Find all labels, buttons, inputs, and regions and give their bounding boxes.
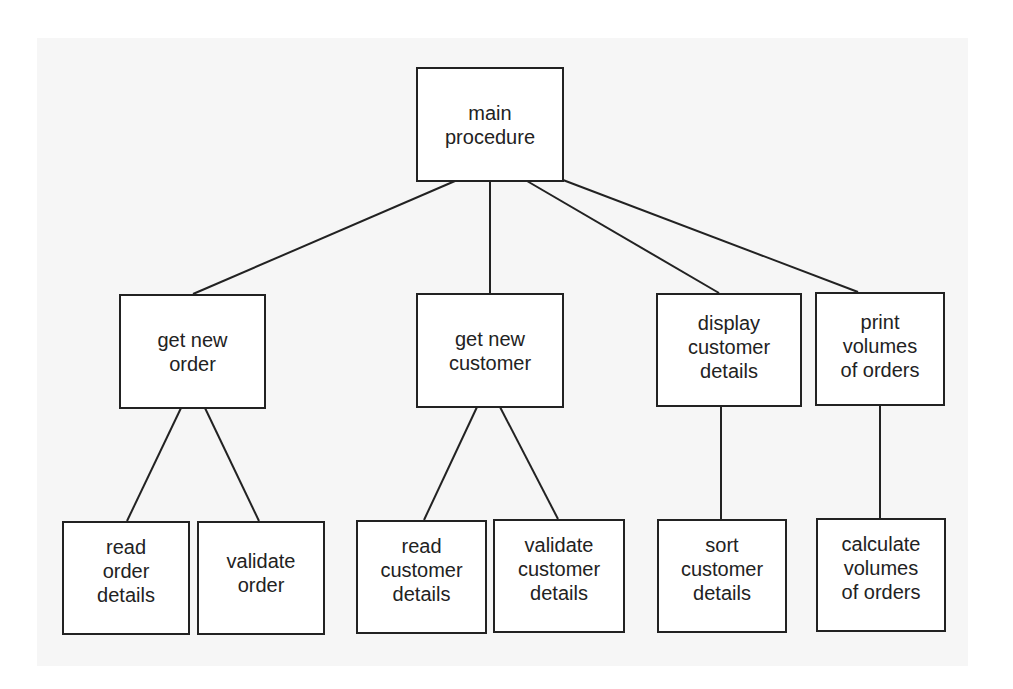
node-get-new-order: get new order	[119, 294, 266, 409]
node-label: order	[169, 352, 216, 376]
node-label: customer	[449, 351, 531, 375]
node-label: details	[693, 581, 751, 605]
node-label: order	[103, 559, 150, 583]
node-get-new-customer: get new customer	[416, 293, 564, 408]
node-label: details	[700, 359, 758, 383]
node-read-customer-details: read customer details	[356, 520, 487, 634]
node-label: order	[238, 573, 285, 597]
edge-customer-read	[424, 407, 477, 520]
node-label: volumes	[843, 334, 917, 358]
node-label: volumes	[844, 556, 918, 580]
node-read-order-details: read order details	[62, 521, 190, 635]
node-label: of orders	[841, 358, 920, 382]
edge-main-display	[527, 181, 719, 293]
node-sort-customer-details: sort customer details	[657, 519, 787, 633]
node-validate-order: validate order	[197, 521, 325, 635]
edge-order-validate	[205, 408, 259, 521]
node-label: get new	[455, 327, 525, 351]
node-label: main	[468, 101, 511, 125]
node-label: procedure	[445, 125, 535, 149]
node-validate-customer-details: validate customer details	[493, 519, 625, 633]
node-label: display	[698, 311, 760, 335]
node-label: details	[97, 583, 155, 607]
node-label: customer	[518, 557, 600, 581]
node-label: details	[530, 581, 588, 605]
node-label: of orders	[842, 580, 921, 604]
node-label: print	[861, 310, 900, 334]
edge-customer-validate	[500, 407, 558, 519]
node-label: sort	[705, 533, 738, 557]
node-label: get new	[157, 328, 227, 352]
node-print-volumes-of-orders: print volumes of orders	[815, 292, 945, 406]
node-label: validate	[227, 549, 296, 573]
edge-main-get-order	[193, 181, 455, 294]
node-label: validate	[525, 533, 594, 557]
node-label: customer	[380, 558, 462, 582]
node-main-procedure: main procedure	[416, 67, 564, 182]
node-calculate-volumes-of-orders: calculate volumes of orders	[816, 518, 946, 632]
edge-order-read	[127, 408, 181, 521]
node-label: calculate	[842, 532, 921, 556]
node-label: customer	[688, 335, 770, 359]
node-display-customer-details: display customer details	[656, 293, 802, 407]
node-label: read	[106, 535, 146, 559]
edge-main-print	[563, 180, 858, 292]
node-label: details	[393, 582, 451, 606]
node-label: customer	[681, 557, 763, 581]
node-label: read	[401, 534, 441, 558]
